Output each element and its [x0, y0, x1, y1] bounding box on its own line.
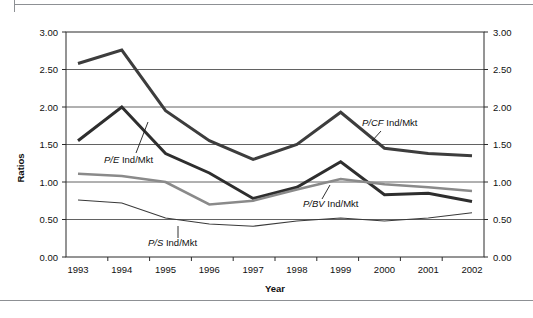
- series-label-p-e: P/E Ind/Mkt: [104, 154, 153, 165]
- y-tick-label-right: 1.00: [493, 177, 512, 188]
- page-rule-bottom: [0, 300, 533, 301]
- x-axis-ticks: 1993199419951996199719981999200020012002: [67, 257, 482, 275]
- y-axis-right-ticks: 0.000.501.001.502.002.503.00: [484, 27, 512, 263]
- y-tick-label-right: 3.00: [493, 27, 512, 38]
- series-line-p-s: [78, 200, 472, 226]
- y-axis-left-ticks: 0.000.501.001.502.002.503.00: [40, 27, 67, 263]
- y-tick-label-left: 0.00: [40, 252, 59, 263]
- series-label-p-s: P/S Ind/Mkt: [148, 237, 197, 248]
- x-tick-label: 2002: [461, 264, 482, 275]
- x-tick-label: 2000: [374, 264, 395, 275]
- x-tick-label: 1996: [199, 264, 220, 275]
- x-tick-label: 1995: [155, 264, 176, 275]
- annotation-leader-line: [322, 185, 330, 199]
- series-line-p-cf: [78, 50, 472, 160]
- x-tick-label: 1993: [67, 264, 88, 275]
- x-tick-label: 1998: [286, 264, 307, 275]
- gridlines: [66, 70, 484, 220]
- y-tick-label-right: 0.00: [493, 252, 512, 263]
- y-tick-label-left: 1.50: [40, 139, 59, 150]
- series-label-p-cf: P/CF Ind/Mkt: [362, 117, 418, 128]
- y-tick-label-right: 1.50: [493, 139, 512, 150]
- y-tick-label-right: 0.50: [493, 214, 512, 225]
- y-tick-label-left: 1.00: [40, 177, 59, 188]
- y-tick-label-left: 2.00: [40, 102, 59, 113]
- x-tick-label: 1999: [330, 264, 351, 275]
- series-label-p-bv: P/BV Ind/Mkt: [303, 198, 359, 209]
- y-tick-label-right: 2.00: [493, 102, 512, 113]
- series-lines: [78, 50, 472, 226]
- y-axis-title: Ratios: [15, 153, 26, 182]
- y-tick-label-right: 2.50: [493, 64, 512, 75]
- y-tick-label-left: 0.50: [40, 214, 59, 225]
- y-tick-label-left: 3.00: [40, 27, 59, 38]
- annotation-leader-line: [372, 131, 381, 141]
- page-rule-top: [14, 4, 533, 5]
- series-line-p-bv: [78, 174, 472, 205]
- chart-figure: Ratios 0.000.501.001.502.002.503.00 0.00…: [0, 0, 533, 318]
- x-tick-label: 1994: [111, 264, 132, 275]
- x-tick-label: 1997: [243, 264, 264, 275]
- page-rule-tick: [14, 0, 15, 12]
- y-tick-label-left: 2.50: [40, 64, 59, 75]
- x-tick-label: 2001: [418, 264, 439, 275]
- ratios-line-chart: Ratios 0.000.501.001.502.002.503.00 0.00…: [0, 0, 533, 318]
- x-axis-title: Year: [265, 283, 285, 294]
